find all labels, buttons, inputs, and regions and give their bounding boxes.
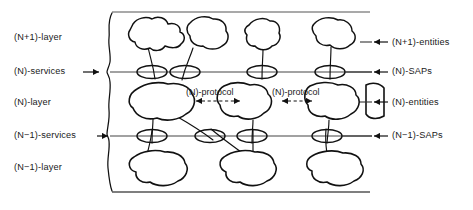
blob-top-3: [245, 19, 280, 50]
sap-lower-4: [312, 130, 342, 143]
label-n-minus-1-services: (N−1)-services: [14, 131, 76, 140]
label-n-plus-1-entities: (N+1)-entities: [392, 38, 450, 47]
sap-lower-1: [137, 130, 167, 143]
n-entity-blobs: [129, 82, 384, 120]
blob-mid-4-clipped: [366, 83, 384, 118]
sap-upper-4: [315, 66, 345, 79]
blob-bot-2: [220, 151, 276, 186]
label-n-layer: (N)-layer: [14, 98, 51, 107]
blob-top-2: [187, 17, 228, 49]
sap-upper-3: [247, 66, 277, 79]
label-n-services: (N)-services: [14, 67, 65, 76]
figure-canvas: (N+1)-layer (N)-services (N)-layer (N−1)…: [0, 0, 473, 210]
blob-mid-1: [129, 83, 194, 120]
label-n-saps: (N)-SAPs: [392, 67, 432, 76]
sap-upper-2: [170, 66, 200, 79]
label-n-plus-1-layer: (N+1)-layer: [14, 33, 62, 42]
sap-lower-3: [237, 130, 267, 143]
label-n-minus-1-saps: (N−1)-SAPs: [392, 131, 443, 140]
n-plus-1-entity-blobs: [129, 17, 356, 51]
blob-top-1: [129, 17, 185, 50]
label-n-minus-1-layer: (N−1)-layer: [14, 163, 62, 172]
sap-lower-2: [195, 130, 225, 143]
blob-bot-3: [307, 151, 363, 186]
blob-top-4: [312, 18, 355, 49]
label-n-protocol-right: (N)-protocol: [272, 88, 320, 97]
left-label-arrows: [83, 72, 108, 136]
sap-upper-1: [137, 66, 167, 79]
label-n-protocol-left: (N)-protocol: [186, 88, 234, 97]
n-minus-1-entity-blobs: [129, 151, 363, 186]
n-minus-1-sap-ellipses: [137, 130, 342, 143]
frame-left-wavy-edge: [107, 13, 112, 191]
blob-bot-1: [129, 151, 187, 186]
label-n-entities: (N)-entities: [392, 98, 439, 107]
